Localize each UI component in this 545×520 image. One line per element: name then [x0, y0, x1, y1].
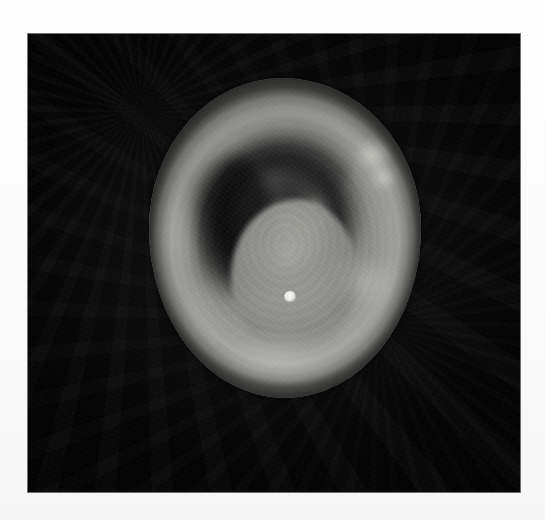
grayscale-endoscopic-photograph — [28, 34, 520, 492]
page-root: Grayscale endoscopic photograph of a cir… — [0, 0, 545, 520]
